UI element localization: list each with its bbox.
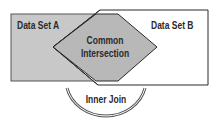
inner-join-label: Inner Join <box>81 94 132 105</box>
data-set-b-label: Data Set B <box>151 20 194 31</box>
intersection-label-line2: Intersection <box>80 48 131 59</box>
data-set-a-label: Data Set A <box>17 20 59 31</box>
intersection-label-line1: Common <box>80 35 131 46</box>
